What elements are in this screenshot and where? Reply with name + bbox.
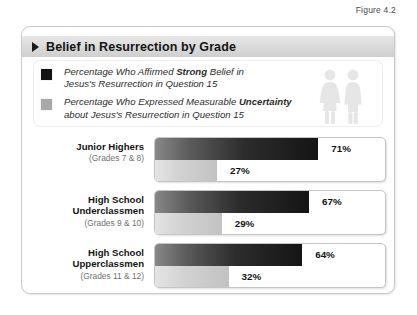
legend-text-emphasis: Uncertainty (239, 96, 292, 107)
figure-card: Belief in Resurrection by Grade Percenta… (21, 26, 395, 294)
bar-group-hs-underclassmen: High School Underclassmen (Grades 9 & 10… (22, 188, 394, 241)
bar-lane-uncertainty: 32% (155, 266, 385, 288)
legend-item-strong-belief: Percentage Who Affirmed Strong Belief in… (40, 66, 292, 90)
legend-swatch-dark (40, 68, 53, 81)
legend-swatch-gray (40, 98, 53, 111)
bar-value-uncertainty: 32% (229, 266, 262, 288)
legend-text-emphasis: Strong (176, 66, 207, 77)
bar-lane-uncertainty: 27% (155, 160, 385, 182)
legend-text-line2: about Jesus's Resurrection in Question 1… (64, 109, 244, 120)
bar-group-junior-highers: Junior Highers (Grades 7 & 8) 71% 27% (22, 135, 394, 188)
bar-fill-strong (155, 138, 318, 160)
triangle-right-icon (32, 42, 39, 52)
bar-value-uncertainty: 29% (222, 213, 255, 235)
page-title: Belief in Resurrection by Grade (46, 40, 236, 54)
bar-fill-uncertainty (155, 266, 229, 288)
bar-value-uncertainty: 27% (217, 160, 250, 182)
bar-track-pair: 71% 27% (154, 137, 386, 182)
bar-value-strong: 67% (309, 191, 342, 213)
figure-caption: Figure 4.2 (356, 5, 396, 15)
legend-list: Percentage Who Affirmed Strong Belief in… (40, 66, 292, 127)
bar-group-label: High School Upperclassmen (Grades 11 & 1… (22, 241, 144, 282)
bar-group-name: High School Upperclassmen (22, 247, 144, 270)
bar-fill-uncertainty (155, 160, 217, 182)
bar-fill-strong (155, 191, 309, 213)
two-people-icon (316, 66, 368, 124)
bar-chart: Junior Highers (Grades 7 & 8) 71% 27% Hi… (22, 135, 394, 294)
bar-lane-uncertainty: 29% (155, 213, 385, 235)
bar-group-hs-upperclassmen: High School Upperclassmen (Grades 11 & 1… (22, 241, 394, 294)
legend-text-line2: Jesus's Resurrection in Question 15 (64, 78, 217, 89)
bar-track-pair: 67% 29% (154, 190, 386, 235)
bar-fill-uncertainty (155, 213, 222, 235)
bar-group-grades: (Grades 7 & 8) (22, 153, 144, 164)
legend-text-prefix: Percentage Who Expressed Measurable (64, 96, 239, 107)
bar-lane-strong: 71% (155, 138, 385, 160)
bar-lane-strong: 64% (155, 244, 385, 266)
bar-track-pair: 64% 32% (154, 243, 386, 288)
bar-group-label: High School Underclassmen (Grades 9 & 10… (22, 188, 144, 229)
bar-value-strong: 64% (302, 244, 335, 266)
legend-item-label: Percentage Who Expressed Measurable Unce… (64, 96, 292, 120)
chart-title-bar: Belief in Resurrection by Grade (22, 36, 394, 57)
bar-group-grades: (Grades 11 & 12) (22, 271, 144, 282)
bar-group-name: Junior Highers (22, 141, 144, 152)
legend-item-label: Percentage Who Affirmed Strong Belief in… (64, 66, 244, 90)
bar-group-label: Junior Highers (Grades 7 & 8) (22, 135, 144, 164)
legend-text-suffix: Belief in (207, 66, 244, 77)
bar-lane-strong: 67% (155, 191, 385, 213)
bar-value-strong: 71% (318, 138, 351, 160)
legend-text-prefix: Percentage Who Affirmed (64, 66, 176, 77)
bar-group-grades: (Grades 9 & 10) (22, 218, 144, 229)
legend-item-uncertainty: Percentage Who Expressed Measurable Unce… (40, 96, 292, 120)
legend-panel: Percentage Who Affirmed Strong Belief in… (33, 60, 383, 127)
bar-fill-strong (155, 244, 302, 266)
bar-group-name: High School Underclassmen (22, 194, 144, 217)
